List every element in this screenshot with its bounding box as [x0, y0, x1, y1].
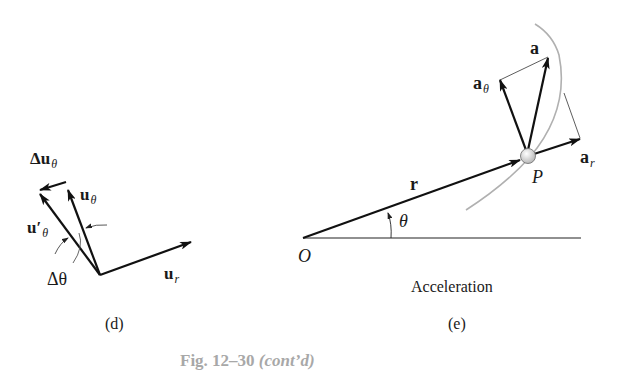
u-theta-prime-label: u′θ: [27, 219, 48, 236]
caption-suffix: (cont’d): [259, 351, 315, 370]
delta-u-theta-label: Δuθ: [30, 150, 57, 167]
particle-p: [521, 149, 536, 164]
delta-theta-label: Δθ: [47, 270, 67, 288]
theta-angle-arc: [388, 213, 391, 238]
panel-d-label: (d): [105, 316, 124, 332]
u-r-label: ur: [164, 265, 179, 282]
a-theta-sub: θ: [483, 82, 489, 96]
delta-theta-pointer-arrow: [55, 238, 68, 254]
delta-u-theta-main: Δu: [30, 149, 50, 168]
theta-label: θ: [399, 212, 408, 230]
panel-e-title: Acceleration: [411, 279, 493, 295]
delta-theta-text: Δθ: [47, 269, 67, 289]
a-label: a: [530, 39, 539, 57]
delta-u-theta-sub: θ: [51, 157, 57, 171]
a-theta-construction-line: [500, 57, 548, 80]
u-r-main: u: [164, 264, 173, 283]
a-r-construction-line: [564, 93, 580, 138]
figure-caption: Fig. 12–30 (cont’d): [180, 351, 315, 371]
u-theta-main: u: [80, 185, 89, 204]
point-p-label: P: [532, 168, 543, 186]
panel-d-diagram: [40, 182, 191, 275]
a-theta-label: aθ: [473, 74, 489, 92]
panel-e-diagram: [303, 24, 581, 238]
delta-u-theta-vector: [40, 182, 66, 190]
origin-o-label: O: [298, 247, 311, 265]
u-theta-pointer-arrow: [86, 225, 107, 228]
r-vector: [303, 160, 520, 238]
a-r-label: ar: [580, 148, 595, 166]
a-r-main: a: [580, 147, 589, 167]
a-theta-vector: [500, 80, 526, 150]
caption-number: Fig. 12–30: [180, 351, 255, 370]
u-theta-prime-main: u′: [27, 218, 41, 237]
u-r-sub: r: [174, 272, 179, 286]
a-theta-main: a: [473, 73, 482, 93]
a-r-sub: r: [590, 156, 595, 170]
u-theta-prime-sub: θ: [42, 226, 48, 240]
panel-e-label: (e): [448, 316, 466, 332]
r-label: r: [410, 175, 418, 193]
u-theta-label: uθ: [80, 186, 96, 203]
u-theta-sub: θ: [90, 193, 96, 207]
